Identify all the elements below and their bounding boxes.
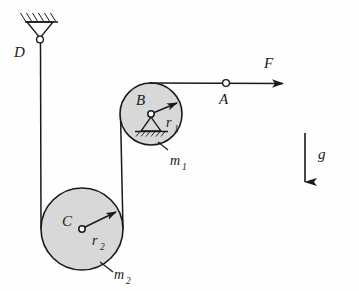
- label-m2-base: m: [114, 267, 124, 282]
- pin-joint-d: [37, 36, 44, 43]
- label-f: F: [263, 55, 274, 71]
- pulley-c: [41, 188, 123, 272]
- label-b: B: [136, 92, 145, 108]
- label-r2-subscript: 2: [100, 242, 105, 252]
- label-m1-subscript: 1: [182, 162, 187, 172]
- label-r1-subscript: 1: [174, 124, 179, 134]
- label-m2-subscript: 2: [126, 276, 131, 286]
- force-f-arrow: [149, 83, 283, 84]
- label-m1-base: m: [170, 153, 180, 168]
- label-r1-base: r: [166, 115, 172, 130]
- diagram-canvas: D B C A F g r 1 r 2 m 1 m 2: [0, 0, 359, 291]
- label-d: D: [13, 44, 25, 60]
- ceiling-hatching: [21, 13, 57, 22]
- pulley-b: [120, 83, 182, 150]
- label-c: C: [62, 213, 73, 229]
- mass-m2-leader: [100, 262, 113, 272]
- point-a-marker: [223, 80, 230, 87]
- label-a: A: [218, 91, 229, 107]
- pulley-b-center: [148, 111, 154, 117]
- label-r2-base: r: [92, 233, 98, 248]
- ceiling-support-d: [21, 13, 59, 43]
- pulley-system-diagram: D B C A F g r 1 r 2 m 1 m 2: [0, 0, 359, 291]
- label-m2: m 2: [114, 267, 131, 286]
- label-g: g: [318, 146, 326, 162]
- cord-left-strand: [41, 43, 42, 229]
- label-m1: m 1: [170, 153, 187, 172]
- cord-right-strand: [121, 114, 124, 229]
- force-f-group: [149, 80, 283, 87]
